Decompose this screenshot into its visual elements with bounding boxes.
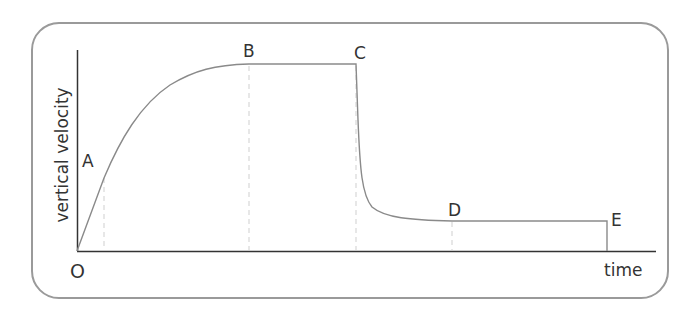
origin-label: O: [70, 262, 85, 281]
dashed-guides: [104, 66, 452, 250]
point-label-c: C: [354, 45, 366, 62]
velocity-time-graph: [0, 0, 692, 319]
x-axis-label: time: [604, 262, 642, 279]
point-label-a: A: [82, 153, 94, 170]
point-label-b: B: [243, 43, 255, 60]
point-label-e: E: [611, 212, 622, 229]
velocity-curve: [77, 64, 607, 251]
point-label-d: D: [448, 202, 461, 219]
y-axis-label: vertical velocity: [54, 87, 71, 222]
